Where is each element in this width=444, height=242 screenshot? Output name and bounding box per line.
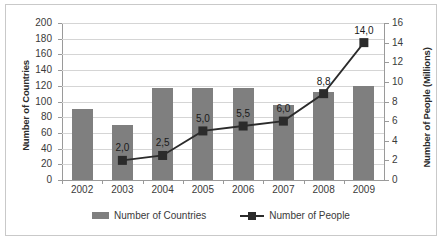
y-axis-left-tick-label: 60 bbox=[26, 127, 52, 138]
x-axis-tick-mark bbox=[143, 180, 144, 184]
line-marker bbox=[198, 126, 207, 135]
x-axis-tick-label: 2006 bbox=[232, 184, 254, 195]
y-axis-right-tick-mark bbox=[385, 180, 389, 181]
legend-item-countries: Number of Countries bbox=[92, 210, 206, 221]
data-label: 5,5 bbox=[236, 108, 250, 119]
legend-item-people: Number of People bbox=[240, 210, 350, 221]
plot-area: 2,02,55,05,56,08,814,0 bbox=[62, 23, 384, 180]
data-label: 8,8 bbox=[317, 76, 331, 87]
y-axis-right-tick-label: 4 bbox=[392, 135, 418, 146]
y-axis-left-tick-label: 80 bbox=[26, 111, 52, 122]
y-axis-right-tick-mark bbox=[385, 23, 389, 24]
legend-label-countries: Number of Countries bbox=[114, 210, 206, 221]
x-axis-tick-label: 2007 bbox=[272, 184, 294, 195]
legend-label-people: Number of People bbox=[269, 210, 350, 221]
y-axis-right-tick-label: 10 bbox=[392, 76, 418, 87]
y-axis-left-tick-label: 200 bbox=[26, 17, 52, 28]
x-axis-tick-label: 2002 bbox=[71, 184, 93, 195]
line-marker bbox=[239, 122, 248, 131]
x-axis-tick-label: 2004 bbox=[152, 184, 174, 195]
x-axis-tick-label: 2005 bbox=[192, 184, 214, 195]
y-axis-right-tick-label: 14 bbox=[392, 37, 418, 48]
y-axis-left-tick-label: 140 bbox=[26, 64, 52, 75]
y-axis-left-tick-label: 100 bbox=[26, 96, 52, 107]
x-axis-tick-mark bbox=[223, 180, 224, 184]
y-axis-right-tick-label: 12 bbox=[392, 56, 418, 67]
legend-swatch-icon bbox=[92, 212, 109, 219]
x-axis-tick-mark bbox=[304, 180, 305, 184]
y-axis-right-tick-label: 0 bbox=[392, 174, 418, 185]
y-axis-right-tick-label: 2 bbox=[392, 154, 418, 165]
y-axis-right-tick-mark bbox=[385, 62, 389, 63]
y-axis-right-tick-mark bbox=[385, 43, 389, 44]
chart-container: Number of Countries Number of People (Mi… bbox=[5, 4, 437, 236]
legend-line-marker-icon bbox=[240, 211, 264, 220]
data-label: 2,0 bbox=[115, 142, 129, 153]
x-axis-tick-mark bbox=[102, 180, 103, 184]
y-axis-left-tick-label: 20 bbox=[26, 158, 52, 169]
line-marker bbox=[158, 151, 167, 160]
x-axis-tick-label: 2008 bbox=[313, 184, 335, 195]
data-label: 2,5 bbox=[156, 137, 170, 148]
y-axis-right-tick-mark bbox=[385, 141, 389, 142]
y-axis-right-title: Number of People (Millions) bbox=[421, 33, 432, 183]
y-axis-left-tick-label: 160 bbox=[26, 48, 52, 59]
y-axis-right-tick-mark bbox=[385, 102, 389, 103]
x-axis-tick-mark bbox=[344, 180, 345, 184]
y-axis-right-tick-label: 6 bbox=[392, 115, 418, 126]
x-axis-tick-mark bbox=[62, 180, 63, 184]
chart-legend: Number of Countries Number of People bbox=[6, 210, 436, 221]
y-axis-left-tick-label: 40 bbox=[26, 143, 52, 154]
line-series bbox=[62, 23, 384, 180]
y-axis-left-tick-label: 180 bbox=[26, 33, 52, 44]
y-axis-right-tick-label: 8 bbox=[392, 96, 418, 107]
y-axis-right-tick-mark bbox=[385, 160, 389, 161]
y-axis-left-tick-label: 0 bbox=[26, 174, 52, 185]
y-axis-right-tick-label: 16 bbox=[392, 17, 418, 28]
data-label: 5,0 bbox=[196, 113, 210, 124]
line-marker bbox=[359, 38, 368, 47]
x-axis-tick-label: 2003 bbox=[111, 184, 133, 195]
line-marker bbox=[279, 117, 288, 126]
line-marker bbox=[118, 156, 127, 165]
x-axis-tick-mark bbox=[263, 180, 264, 184]
y-axis-right-tick-mark bbox=[385, 121, 389, 122]
x-axis-tick-label: 2009 bbox=[353, 184, 375, 195]
x-axis-tick-mark bbox=[183, 180, 184, 184]
data-label: 14,0 bbox=[354, 25, 373, 36]
data-label: 6,0 bbox=[276, 103, 290, 114]
line-marker bbox=[319, 89, 328, 98]
y-axis-left-tick-label: 120 bbox=[26, 80, 52, 91]
y-axis-right-tick-mark bbox=[385, 82, 389, 83]
